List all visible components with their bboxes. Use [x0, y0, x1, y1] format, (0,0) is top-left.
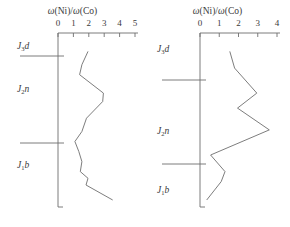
- x-axis-ticks-left: [58, 33, 135, 37]
- plot-area-left: [0, 0, 145, 227]
- strat-boundaries-left: [20, 56, 64, 143]
- x-axis-ticks-right: [200, 33, 277, 37]
- chart-panel-right: ωω(Ni)/ω(Co)(Ni)/ω(Co) 0 1 2 3 4 J3d J2n…: [145, 0, 290, 227]
- strat-boundaries-right: [162, 80, 206, 164]
- data-line-left: [75, 51, 113, 200]
- data-line-right: [207, 51, 270, 200]
- figure-container: ωω(Ni)/ω(Co)(Ni)/ω(Co) 0 1 2 3 4 5 J3d J…: [0, 0, 290, 227]
- chart-panel-left: ωω(Ni)/ω(Co)(Ni)/ω(Co) 0 1 2 3 4 5 J3d J…: [0, 0, 145, 227]
- plot-area-right: [145, 0, 290, 227]
